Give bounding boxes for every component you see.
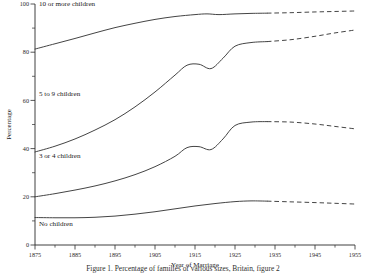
family-size-line-chart: 10 or more children5 to 9 children3 or 4… xyxy=(0,0,366,273)
series-label-1: 10 or more children xyxy=(39,0,96,8)
y-tick-label: 0 xyxy=(26,241,29,248)
y-tick-label: 20 xyxy=(23,193,29,200)
x-tick-label: 1935 xyxy=(269,251,281,258)
x-tick-label: 1895 xyxy=(109,251,121,258)
x-tick-label: 1885 xyxy=(69,251,81,258)
series-label-2: 5 to 9 children xyxy=(39,90,81,98)
chart-tick-labels: 0204060801001875188518951905191519251935… xyxy=(5,0,361,269)
y-axis-title: Percentage xyxy=(5,109,13,140)
y-tick-label: 100 xyxy=(20,0,29,7)
chart-figure: 10 or more children5 to 9 children3 or 4… xyxy=(0,0,366,273)
chart-series-layer xyxy=(35,11,355,218)
x-tick-label: 1925 xyxy=(229,251,241,258)
series-observed-line xyxy=(35,201,267,218)
series-2-curve xyxy=(35,30,355,152)
x-tick-label: 1875 xyxy=(29,251,41,258)
series-projected-line xyxy=(267,201,355,204)
series-observed-line xyxy=(35,13,267,49)
x-tick-label: 1945 xyxy=(309,251,321,258)
chart-inline-labels: 10 or more children5 to 9 children3 or 4… xyxy=(39,0,96,227)
x-tick-label: 1915 xyxy=(189,251,201,258)
series-4-curve xyxy=(35,201,355,218)
y-tick-label: 40 xyxy=(23,145,29,152)
series-projected-line xyxy=(267,30,355,42)
series-label-4: No children xyxy=(39,220,73,228)
x-tick-label: 1905 xyxy=(149,251,161,258)
y-tick-label: 60 xyxy=(23,97,29,104)
x-tick-label: 1955 xyxy=(349,251,361,258)
series-label-3: 3 or 4 children xyxy=(39,152,81,160)
series-3-curve xyxy=(35,122,355,197)
series-projected-line xyxy=(267,122,355,129)
chart-axes xyxy=(31,4,356,250)
series-projected-line xyxy=(267,11,355,13)
y-tick-label: 80 xyxy=(23,48,29,55)
figure-caption: Figure 1. Percentage of families of vari… xyxy=(0,264,366,273)
series-1-curve xyxy=(35,11,355,49)
